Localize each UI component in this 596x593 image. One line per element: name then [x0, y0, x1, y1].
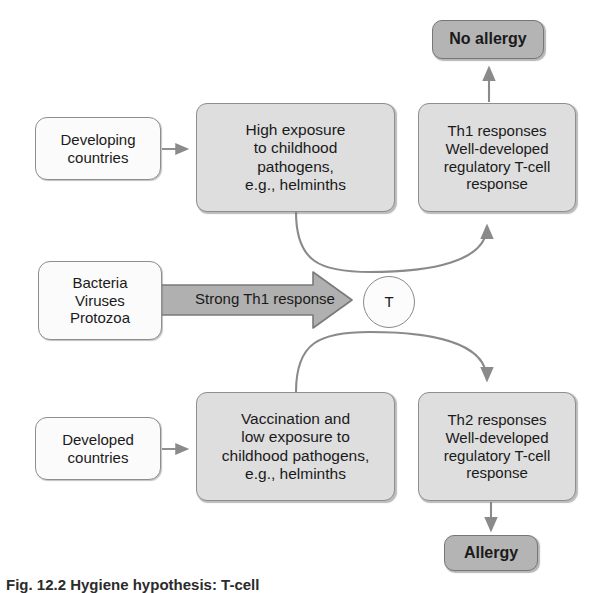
node-allergy[interactable]: Allergy	[444, 535, 538, 571]
node-developed-countries-label: Developed countries	[58, 431, 138, 466]
figure-canvas: Developing countries High exposure to ch…	[0, 0, 596, 593]
node-th1-responses[interactable]: Th1 responses Well-developed regulatory …	[418, 103, 576, 212]
arrow-highexposure-to-th1	[296, 212, 487, 272]
node-high-exposure[interactable]: High exposure to childhood pathogens, e.…	[196, 103, 395, 212]
node-allergy-label: Allergy	[460, 544, 522, 563]
node-th1-responses-label: Th1 responses Well-developed regulatory …	[440, 122, 554, 193]
node-th2-responses-label: Th2 responses Well-developed regulatory …	[440, 411, 554, 482]
node-vaccination[interactable]: Vaccination and low exposure to childhoo…	[196, 392, 395, 501]
node-t-cell-label: T	[380, 293, 397, 311]
node-high-exposure-label: High exposure to childhood pathogens, e.…	[241, 121, 350, 194]
node-no-allergy[interactable]: No allergy	[432, 20, 544, 59]
node-vaccination-label: Vaccination and low exposure to childhoo…	[218, 410, 373, 483]
node-developed-countries[interactable]: Developed countries	[35, 417, 161, 480]
arrow-vaccination-to-th2	[296, 332, 487, 392]
node-th2-responses[interactable]: Th2 responses Well-developed regulatory …	[418, 392, 576, 501]
node-developing-countries[interactable]: Developing countries	[35, 117, 161, 180]
node-pathogens[interactable]: Bacteria Viruses Protozoa	[38, 261, 162, 340]
edge-label-strong-th1-response: Strong Th1 response	[170, 283, 360, 313]
node-no-allergy-label: No allergy	[445, 30, 530, 49]
node-pathogens-label: Bacteria Viruses Protozoa	[66, 274, 134, 327]
node-developing-countries-label: Developing countries	[56, 131, 139, 166]
node-t-cell[interactable]: T	[363, 276, 415, 328]
figure-caption: Fig. 12.2 Hygiene hypothesis: T-cell	[6, 576, 259, 593]
